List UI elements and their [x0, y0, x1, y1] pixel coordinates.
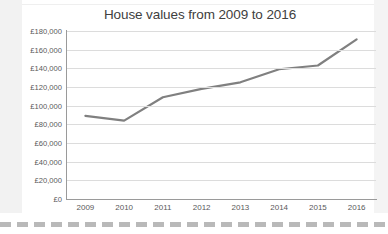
y-gridline	[66, 143, 376, 144]
x-axis-tick-label: 2010	[115, 203, 133, 212]
y-gridline	[66, 162, 376, 163]
x-axis-tick-label: 2009	[76, 203, 94, 212]
y-axis-tick-label: £100,000	[12, 101, 62, 110]
x-axis-tick-label: 2015	[309, 203, 327, 212]
y-axis-tick-label: £180,000	[12, 27, 62, 36]
y-axis-tick-label: £20,000	[12, 176, 62, 185]
y-axis-tick-label: £0	[12, 195, 62, 204]
dashed-separator	[0, 222, 388, 227]
y-gridline	[66, 68, 376, 69]
y-axis-tick-label: £40,000	[12, 157, 62, 166]
chart-title: House values from 2009 to 2016	[40, 7, 360, 22]
y-axis-tick-label: £80,000	[12, 120, 62, 129]
y-axis-tick-label: £160,000	[12, 45, 62, 54]
y-axis-tick-label: £120,000	[12, 83, 62, 92]
x-axis-tick-label: 2014	[270, 203, 288, 212]
x-axis-line	[66, 199, 377, 200]
plot-area: £0£20,000£40,000£60,000£80,000£100,000£1…	[66, 31, 376, 199]
y-gridline	[66, 87, 376, 88]
y-gridline	[66, 124, 376, 125]
x-axis-tick-label: 2016	[348, 203, 366, 212]
x-axis-tick-label: 2011	[154, 203, 171, 212]
y-axis-line	[66, 30, 67, 200]
y-gridline	[66, 31, 376, 32]
y-gridline	[66, 50, 376, 51]
x-axis-tick-label: 2013	[231, 203, 249, 212]
y-axis-tick-label: £140,000	[12, 64, 62, 73]
line-chart: House values from 2009 to 2016 £0£20,000…	[0, 0, 388, 210]
y-gridline	[66, 106, 376, 107]
y-axis-tick-label: £60,000	[12, 139, 62, 148]
screenshot-root: House values from 2009 to 2016 £0£20,000…	[0, 0, 388, 234]
data-series-line	[66, 31, 376, 199]
x-axis-tick-label: 2012	[193, 203, 211, 212]
y-gridline	[66, 180, 376, 181]
